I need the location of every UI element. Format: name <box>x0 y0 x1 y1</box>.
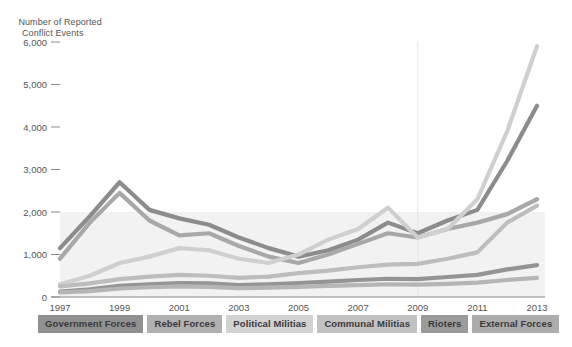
y-axis-tick-label: 6,000 <box>23 37 47 48</box>
legend-item[interactable]: Rioters <box>421 315 468 333</box>
y-axis-tick-group: 6,0005,0004,0003,0002,0001,0000 <box>23 37 60 303</box>
y-axis-tick-label: 1,000 <box>23 249 47 260</box>
y-axis-tick-label: 2,000 <box>23 207 47 218</box>
y-axis-tick-label: 3,000 <box>23 164 47 175</box>
x-axis-tick-label: 2007 <box>348 302 369 312</box>
legend-item[interactable]: Political Militias <box>226 315 313 333</box>
legend-item[interactable]: Communal Militias <box>317 315 417 333</box>
x-axis-tick-label: 1999 <box>109 302 130 312</box>
chart-legend: Government ForcesRebel ForcesPolitical M… <box>38 315 559 333</box>
x-axis-tick-label: 2001 <box>169 302 190 312</box>
y-axis-tick-label: 5,000 <box>23 79 47 90</box>
y-axis-tick-label: 4,000 <box>23 122 47 133</box>
x-axis-tick-label: 2013 <box>526 302 547 312</box>
chart-figure: Number of ReportedConflict Events 6,0005… <box>0 0 572 347</box>
x-axis-tick-label: 2005 <box>288 302 309 312</box>
y-axis-tick-label: 0 <box>42 292 47 303</box>
line-chart-plot: 6,0005,0004,0003,0002,0001,0000 19971999… <box>0 0 572 312</box>
x-axis-tick-label: 2009 <box>407 302 428 312</box>
legend-item[interactable]: Government Forces <box>38 315 143 333</box>
x-axis-tick-label-group: 199719992001200320052007200920112013 <box>49 302 547 312</box>
x-axis-tick-label: 2011 <box>467 302 487 312</box>
x-axis-tick-label: 2003 <box>228 302 249 312</box>
x-axis-tick-label: 1997 <box>49 302 70 312</box>
legend-item[interactable]: External Forces <box>472 315 559 333</box>
legend-item[interactable]: Rebel Forces <box>147 315 222 333</box>
